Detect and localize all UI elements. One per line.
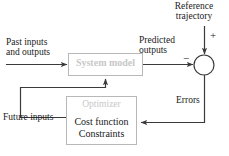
future-inputs-label: Future inputs xyxy=(3,113,53,123)
optimizer-cost-function-text: Cost function xyxy=(66,117,137,128)
predicted-outputs-label: Predicted outputs xyxy=(139,36,199,56)
reference-trajectory-line2: trajectory xyxy=(162,12,226,22)
optimizer-title: Optimizer xyxy=(66,100,137,110)
past-inputs-outputs-label: Past inputs and outputs xyxy=(6,38,86,58)
past-inputs-line2: and outputs xyxy=(6,48,86,58)
plus-sign: + xyxy=(210,30,216,41)
system-model-title: System model xyxy=(68,58,143,69)
errors-label: Errors xyxy=(176,96,200,106)
optimizer-constraints-text: Constraints xyxy=(66,129,137,140)
predicted-outputs-line2: outputs xyxy=(139,46,199,56)
summing-junction xyxy=(194,55,214,75)
mpc-block-diagram: Reference trajectory Past inputs and out… xyxy=(0,0,229,156)
minus-sign: − xyxy=(183,53,189,64)
reference-trajectory-label: Reference trajectory xyxy=(162,2,226,22)
